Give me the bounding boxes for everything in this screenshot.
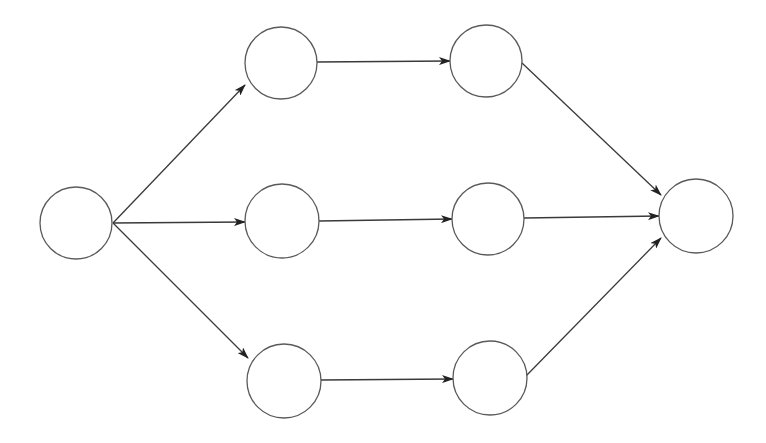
edge-source-to-top-1 — [113, 85, 245, 223]
node-circle — [247, 344, 321, 418]
node-mid-2 — [452, 183, 524, 255]
node-bot-2 — [453, 341, 527, 415]
node-circle — [450, 25, 522, 97]
edge-mid-1-to-mid-2 — [319, 219, 452, 221]
network-diagram — [0, 0, 766, 443]
node-bot-1 — [247, 344, 321, 418]
node-circle — [245, 27, 317, 99]
node-top-2 — [450, 25, 522, 97]
edges-layer — [113, 61, 661, 380]
node-top-1 — [245, 27, 317, 99]
node-circle — [453, 341, 527, 415]
edge-top-2-to-sink — [522, 63, 661, 195]
node-sink — [659, 179, 733, 253]
edge-mid-2-to-sink — [524, 216, 659, 218]
edge-bot-1-to-bot-2 — [321, 379, 453, 380]
node-circle — [40, 187, 112, 259]
edge-source-to-mid-1 — [113, 222, 245, 223]
node-circle — [452, 183, 524, 255]
edge-top-1-to-top-2 — [317, 61, 450, 62]
node-circle — [659, 179, 733, 253]
node-mid-1 — [245, 184, 319, 258]
node-circle — [245, 184, 319, 258]
node-source — [40, 187, 112, 259]
edge-source-to-bot-1 — [113, 223, 248, 358]
edge-bot-2-to-sink — [526, 238, 661, 376]
nodes-layer — [40, 25, 733, 418]
